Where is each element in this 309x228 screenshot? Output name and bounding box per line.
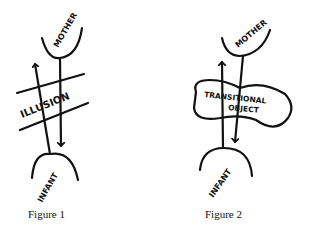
- mother-label-1: MOTHER: [52, 11, 79, 49]
- infant-label-1: INFANT: [36, 171, 60, 204]
- upward-arrow: [222, 62, 223, 148]
- diagram-canvas: MOTHER ILLUSION INFANT MOTHER TRANSITION…: [0, 0, 309, 228]
- figure-1-caption: Figure 1: [28, 208, 65, 220]
- illusion-band-top: [17, 74, 84, 93]
- figure-2-caption: Figure 2: [205, 208, 242, 220]
- object-label: OBJECT: [228, 103, 260, 115]
- transitional-object-shape: [194, 80, 291, 127]
- infant-label-2: INFANT: [207, 167, 233, 199]
- illusion-label: ILLUSION: [19, 90, 71, 120]
